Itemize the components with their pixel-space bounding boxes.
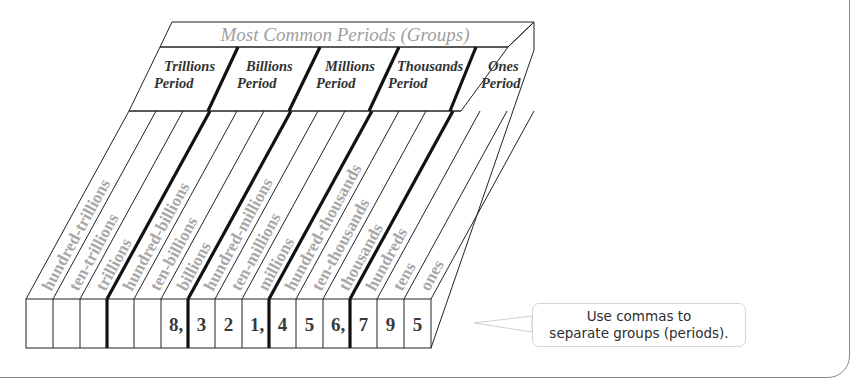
digit-cell: 8, bbox=[169, 314, 184, 335]
svg-text:Trillions: Trillions bbox=[164, 58, 215, 74]
svg-text:Ones: Ones bbox=[488, 58, 519, 74]
digit-cell: 1, bbox=[250, 314, 265, 335]
svg-text:Millions: Millions bbox=[324, 58, 375, 74]
digit-cell: 7 bbox=[359, 314, 369, 335]
digit-cell: 2 bbox=[224, 314, 234, 335]
period-row: Trillions Period Billions Period Million… bbox=[129, 47, 521, 111]
digit-cell: 6, bbox=[331, 314, 346, 335]
place-value-labels: hundred-trillions ten-trillions trillion… bbox=[38, 160, 448, 294]
svg-text:Period: Period bbox=[154, 75, 194, 91]
label-ones: ones bbox=[416, 256, 448, 294]
callout-pointer bbox=[474, 316, 533, 332]
chart-title: Most Common Periods (Groups) bbox=[220, 24, 470, 46]
svg-text:Period: Period bbox=[237, 75, 277, 91]
svg-text:Billions: Billions bbox=[245, 58, 293, 74]
period-thousands: Thousands Period bbox=[388, 58, 463, 91]
callout-line-2: separate groups (periods). bbox=[549, 325, 728, 342]
callout-note: Use commas to separate groups (periods). bbox=[532, 303, 746, 347]
digit-cell: 9 bbox=[386, 314, 396, 335]
period-trillions: Trillions Period bbox=[154, 58, 215, 91]
period-millions: Millions Period bbox=[316, 58, 375, 91]
digit-row: 8, 3 2 1, 4 5 6, 7 9 5 bbox=[26, 299, 431, 348]
svg-text:Period: Period bbox=[481, 75, 521, 91]
svg-text:Period: Period bbox=[388, 75, 428, 91]
svg-text:Thousands: Thousands bbox=[397, 58, 463, 74]
callout-line-1: Use commas to bbox=[587, 308, 692, 325]
digit-cell: 5 bbox=[413, 314, 423, 335]
period-billions: Billions Period bbox=[237, 58, 293, 91]
digit-cell: 3 bbox=[197, 314, 207, 335]
svg-text:Period: Period bbox=[316, 75, 356, 91]
digit-cell: 5 bbox=[305, 314, 315, 335]
digit-cell: 4 bbox=[278, 314, 288, 335]
period-ones: Ones Period bbox=[481, 58, 521, 91]
header-title-band: Most Common Periods (Groups) bbox=[160, 22, 534, 47]
